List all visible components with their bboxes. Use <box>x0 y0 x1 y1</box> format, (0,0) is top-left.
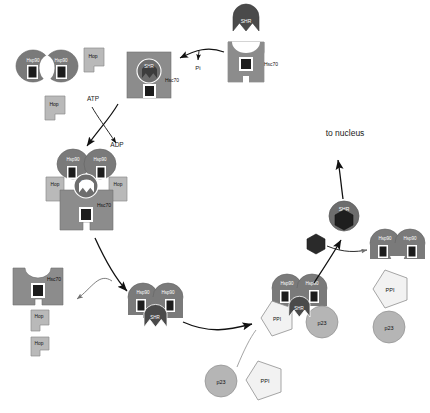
ppi-label-recycled: PPI <box>386 287 395 293</box>
pi-branch-arrow <box>198 51 199 60</box>
hop-label-lower: Hop <box>49 101 58 107</box>
hsp90-chaperone-cycle-diagram: SHR Hsc70 Pi SHR Hsc70 Hsp90 Hsp90 <box>0 0 430 413</box>
ppi-label-free: PPI <box>261 378 270 384</box>
adp-label: ADP <box>110 141 123 148</box>
hsc70-hop-release-arrow <box>77 278 112 299</box>
free-hop-lower-group: Hop <box>45 96 65 120</box>
nucleotide-icon <box>241 59 251 69</box>
hop-label-upper: Hop <box>88 53 97 59</box>
recycled-hsp90-dimer-group: Hsp90 Hsp90 <box>370 229 425 263</box>
hsc70-label-3: Hsc70 <box>97 202 111 208</box>
hsp90-right-nucleotide-5 <box>409 247 416 257</box>
hsp90-right-nucleotide-3 <box>167 301 174 311</box>
hsc70-label: Hsc70 <box>264 61 278 67</box>
hsc70-shr-complex-group: Hsc70 <box>228 42 278 82</box>
hop-shape-upper <box>84 48 104 72</box>
steroid-hormone-hexagon <box>307 234 325 254</box>
shr-label-3: SHR <box>81 180 91 185</box>
shr-label: SHR <box>241 18 252 24</box>
hsp90-shr-complex-group: Hsp90 Hsp90 SHR <box>128 283 183 327</box>
hsp90-left-nucleotide-3 <box>138 301 145 311</box>
hsp90-left-nucleotide-4 <box>282 292 289 302</box>
shr-label-5: SHR <box>294 306 304 311</box>
shr-label-4: SHR <box>150 315 160 320</box>
mature-complex-group: Hsp90 Hsp90 PPI p23 SHR <box>261 274 338 338</box>
hsp90-cleft-5 <box>390 256 405 263</box>
recycled-ppi-group: PPI <box>373 270 407 308</box>
hsp90-right-label-5: Hsp90 <box>403 236 417 241</box>
hsp90-right-nucleotide <box>58 67 66 78</box>
free-p23-group: p23 <box>205 365 237 397</box>
hsc70-notch <box>243 76 249 82</box>
free-shr-group: SHR <box>233 4 259 31</box>
diagram-canvas: SHR Hsc70 Pi SHR Hsc70 Hsp90 Hsp90 <box>0 0 430 413</box>
hsp90-right-label: Hsp90 <box>54 58 68 63</box>
hsc70-label-4: Hsc70 <box>47 276 61 282</box>
pi-label: Pi <box>195 65 200 71</box>
pi-release-arrow-group: Pi <box>180 49 224 71</box>
recycled-p23-group: p23 <box>373 311 405 343</box>
hop-left-label: Hop <box>51 182 60 187</box>
hsp90-right-nucleotide-4 <box>311 292 318 302</box>
hsp90-right-label-4: Hsp90 <box>305 281 319 286</box>
nucleotide-icon-3 <box>81 209 91 220</box>
nucleotide-icon-4 <box>33 285 43 296</box>
hsc70-shr-loaded-group: SHR Hsc70 <box>127 52 179 98</box>
nuclear-translocation-arrow <box>338 160 343 199</box>
hsp90-dissociation-arrow <box>327 246 367 251</box>
p23-label-free: p23 <box>216 379 225 385</box>
atp-adp-arrows-group: ATP ADP <box>87 95 124 148</box>
hsp90-left-label-3: Hsp90 <box>136 290 150 295</box>
hsp90-left-nucleotide <box>29 67 37 78</box>
atp-label: ATP <box>87 95 99 102</box>
hsp90-left-label-5: Hsp90 <box>378 236 392 241</box>
shr-label-2: SHR <box>144 64 154 69</box>
activated-shr-group: SHR <box>329 201 359 231</box>
hop-label-released-lower: Hop <box>35 341 44 346</box>
hormone-ligand-group <box>307 234 325 254</box>
ppi-label-bound: PPI <box>273 316 281 322</box>
hop-shape-released-lower <box>31 337 49 356</box>
nucleotide-icon-2 <box>145 86 154 96</box>
hsp90-left-label-2: Hsp90 <box>66 157 80 162</box>
p23-ppi-recruitment-arrow <box>237 330 256 367</box>
free-hop-upper-group: Hop <box>84 48 104 72</box>
released-hsc70-hop-group: Hsc70 Hop Hop <box>13 268 63 356</box>
hop-right-label: Hop <box>114 182 123 187</box>
hsp90-left-label-4: Hsp90 <box>280 281 294 286</box>
hsp90-left-nucleotide-2 <box>69 168 76 178</box>
hsp90-right-label-2: Hsp90 <box>93 157 107 162</box>
hsp90-left-nucleotide-5 <box>380 247 387 257</box>
hsp90-right-label-3: Hsp90 <box>161 290 175 295</box>
to-nucleus-label: to nucleus <box>326 128 365 138</box>
p23-label-recycled: p23 <box>384 325 393 331</box>
pi-arrow <box>180 49 224 58</box>
hsp90-left-label: Hsp90 <box>26 58 40 63</box>
free-hsp90-dimer-group: Hsp90 Hsp90 <box>16 50 78 82</box>
hsc70-label-2: Hsc70 <box>165 77 179 83</box>
intermediate-complex-group: Hop Hop Hsc70 Hsp90 Hsp90 SHR <box>46 149 127 230</box>
cofactor-binding-arrow <box>183 322 252 330</box>
free-ppi-group: PPI <box>246 361 281 400</box>
hsp90-right-nucleotide-2 <box>98 168 105 178</box>
maturation-arrow <box>95 238 127 291</box>
hop-label-released-upper: Hop <box>35 314 44 319</box>
p23-label-bound: p23 <box>317 320 326 326</box>
hop-shape-lower <box>45 96 65 120</box>
